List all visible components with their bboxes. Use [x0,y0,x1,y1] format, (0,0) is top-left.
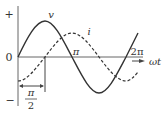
y-minus-label: − [5,94,14,107]
phase-arrow-left-icon [19,84,23,88]
omega-t-label: ωt [149,56,162,67]
pi-tick-label: π [72,46,80,57]
phase-diagram: π 2 + − 0 π 2π ωt v i [0,0,167,114]
origin-label: 0 [6,51,13,64]
phase-numerator: π [27,87,35,98]
y-plus-label: + [4,8,13,21]
two-pi-tick-label: 2π [131,46,144,57]
phase-arrow-right-icon [40,84,44,88]
i-label: i [87,26,90,37]
phase-denominator: 2 [28,100,34,111]
v-label: v [48,9,54,20]
